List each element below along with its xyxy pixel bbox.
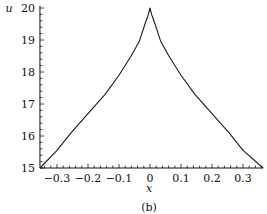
figure-caption: (b) — [141, 201, 157, 214]
y-tick-label: 19 — [21, 34, 35, 47]
y-tick-label: 18 — [21, 66, 35, 79]
x-tick-label: 0.1 — [172, 172, 190, 185]
x-tick-label: −0.1 — [106, 172, 133, 185]
x-tick-label: 0.2 — [203, 172, 221, 185]
x-tick-label: 0.3 — [234, 172, 252, 185]
y-tick-label: 15 — [21, 162, 35, 175]
y-tick-label: 17 — [21, 98, 35, 111]
chart: −0.3−0.2−0.100.10.20.3 151617181920 x u … — [0, 0, 267, 214]
data-line — [40, 8, 263, 168]
y-axis-label: u — [5, 2, 12, 15]
x-axis-label: x — [146, 182, 153, 195]
x-tick-label: −0.3 — [44, 172, 71, 185]
y-tick-label: 16 — [21, 130, 35, 143]
x-tick-label: −0.2 — [75, 172, 102, 185]
plot-area — [40, 8, 263, 168]
y-axis: 151617181920 — [21, 2, 44, 175]
y-tick-label: 20 — [21, 2, 35, 15]
